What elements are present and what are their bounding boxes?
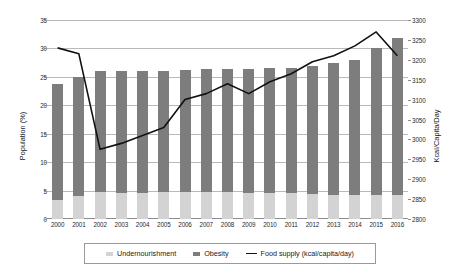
x-axis-tick-label: 2016 [387,221,408,228]
y-axis-left-tickmark [44,219,47,220]
x-axis-tick-label: 2001 [68,221,89,228]
y-axis-right-tick-label: 2800 [412,216,446,223]
x-axis-tick-label: 2009 [238,221,259,228]
y-axis-right-tickmark [408,60,411,61]
x-axis-tick-label: 2014 [344,221,365,228]
y-axis-right-tickmark [408,139,411,140]
legend-item[interactable]: Food supply (kcal/capita/day) [246,249,354,258]
chart-legend: UndernourishmentObesityFood supply (kcal… [84,243,376,264]
y-axis-left-tickmark [44,134,47,135]
x-axis-tick-label: 2012 [302,221,323,228]
food-supply-line [47,20,408,219]
x-axis-tick-label: 2006 [174,221,195,228]
y-axis-right-tickmark [408,120,411,121]
legend-bar-swatch [193,252,200,256]
y-axis-right-tick-label: 3000 [412,136,446,143]
y-axis-left-tick-label: 25 [19,73,47,80]
y-axis-right-tickmark [408,199,411,200]
legend-line-swatch [246,253,257,254]
legend-label: Food supply (kcal/capita/day) [261,249,354,258]
x-axis-tick-label: 2007 [196,221,217,228]
x-axis-tick-label: 2013 [323,221,344,228]
legend-bar-swatch [106,252,113,256]
x-axis-tick-label: 2002 [89,221,110,228]
x-axis-tick-label: 2003 [111,221,132,228]
legend-item[interactable]: Obesity [193,249,228,258]
y-axis-right-tickmark [408,40,411,41]
y-axis-right-tick-label: 2950 [412,156,446,163]
x-axis-tick-label: 2000 [47,221,68,228]
y-axis-left-tickmark [44,48,47,49]
y-axis-right-tickmark [408,80,411,81]
x-axis-tick-label: 2011 [281,221,302,228]
y-axis-right-tick-label: 3150 [412,76,446,83]
x-axis-tick-label: 2005 [153,221,174,228]
y-axis-right-tickmark [408,219,411,220]
y-axis-right-tickmark [408,20,411,21]
y-axis-right-tickmark [408,179,411,180]
x-axis-tick-label: 2004 [132,221,153,228]
y-axis-right-tick-label: 2850 [412,196,446,203]
y-axis-left-tick-label: 30 [19,45,47,52]
y-axis-left-tickmark [44,162,47,163]
y-axis-right-tick-label: 3250 [412,36,446,43]
legend-label: Undernourishment [117,249,176,258]
y-axis-left-tick-label: 20 [19,102,47,109]
y-axis-right-tickmark [408,159,411,160]
plot-area [47,20,408,219]
y-axis-left-tick-label: 35 [19,17,47,24]
y-axis-right-tick-label: 2900 [412,176,446,183]
x-axis-tick-label: 2008 [217,221,238,228]
x-axis-tick-label: 2010 [259,221,280,228]
y-axis-left-tick-label: 10 [19,159,47,166]
y-axis-left-tick-label: 5 [19,187,47,194]
y-axis-right-tickmark [408,100,411,101]
y-axis-left-tick-label: 15 [19,130,47,137]
y-axis-right-tick-label: 3300 [412,17,446,24]
x-axis-labels: 2000200120022003200420052006200720082009… [47,221,408,228]
legend-item[interactable]: Undernourishment [106,249,176,258]
y-axis-left-tickmark [44,20,47,21]
y-axis-left-tickmark [44,77,47,78]
y-axis-right-tick-label: 3100 [412,96,446,103]
y-axis-left-tick-label: 0 [19,216,47,223]
y-axis-left-tickmark [44,191,47,192]
y-axis-right-tick-label: 3200 [412,56,446,63]
y-axis-left-tickmark [44,105,47,106]
food-nutrition-chart: Population (%) Kcal/Capita/Day 051015202… [0,0,459,271]
legend-label: Obesity [204,249,228,258]
food-supply-line-path [58,32,398,149]
y-axis-right-tick-label: 3050 [412,116,446,123]
x-axis-tick-label: 2015 [366,221,387,228]
